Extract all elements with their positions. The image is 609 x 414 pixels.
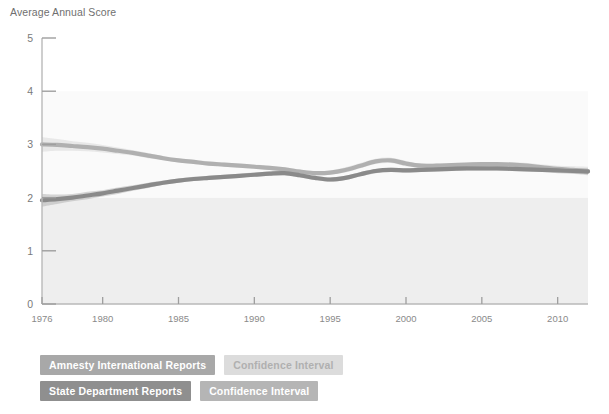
legend-row-state-department: State Department Reports Confidence Inte… — [40, 381, 343, 401]
x-tick-label: 1990 — [244, 313, 265, 324]
x-tick-label: 2005 — [471, 313, 492, 324]
x-tick-label: 1980 — [92, 313, 113, 324]
y-tick-label: 1 — [27, 245, 33, 257]
chart-container: Average Annual Score 012345 197619801985… — [0, 0, 609, 414]
legend-chip-state-department-confidence-interval[interactable]: Confidence Interval — [200, 381, 318, 401]
band-0-2 — [42, 198, 588, 304]
y-tick-label: 0 — [27, 298, 33, 310]
x-axis-tick-labels: 19761980198519901995200020052010 — [31, 313, 568, 324]
x-tick-label: 1976 — [31, 313, 52, 324]
legend-row-amnesty: Amnesty International Reports Confidence… — [40, 355, 343, 375]
legend-chip-amnesty-confidence-interval[interactable]: Confidence Interval — [224, 355, 342, 375]
x-tick-label: 1985 — [168, 313, 189, 324]
band-2-4 — [42, 91, 588, 197]
y-axis-tick-labels: 012345 — [27, 32, 33, 310]
x-tick-label: 2010 — [547, 313, 568, 324]
chart-legend: Amnesty International Reports Confidence… — [40, 355, 343, 401]
x-tick-label: 1995 — [320, 313, 341, 324]
legend-chip-state-department-reports[interactable]: State Department Reports — [40, 381, 191, 401]
y-tick-label: 5 — [27, 32, 33, 44]
y-tick-label: 3 — [27, 138, 33, 150]
background-bands — [42, 91, 588, 304]
y-tick-label: 4 — [27, 85, 33, 97]
x-tick-label: 2000 — [395, 313, 416, 324]
chart-plot-svg: 012345 19761980198519901995200020052010 — [0, 0, 609, 414]
y-tick-label: 2 — [27, 192, 33, 204]
legend-chip-amnesty-reports[interactable]: Amnesty International Reports — [40, 355, 215, 375]
